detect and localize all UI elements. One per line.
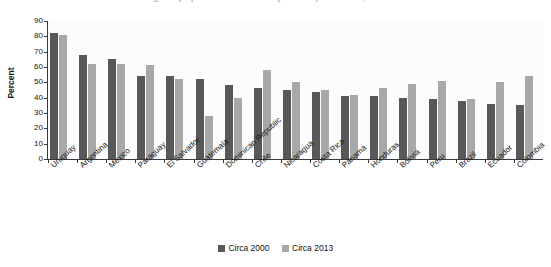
bar-group — [223, 21, 252, 159]
x-axis-labels: UruguayArgentinaMexicoParaguayEl Salvado… — [47, 163, 547, 221]
bar-group — [485, 21, 514, 159]
bar — [146, 65, 154, 159]
y-tick-label: 40 — [24, 94, 43, 102]
y-tick-label: 90 — [24, 17, 43, 25]
bar — [283, 90, 291, 159]
legend-item: Circa 2013 — [282, 243, 334, 253]
bar — [225, 85, 233, 159]
bar-group — [368, 21, 397, 159]
bar — [137, 76, 145, 159]
chart-figure: Percentage of population covered by soci… — [0, 0, 551, 267]
bar — [370, 96, 378, 159]
bar — [50, 33, 58, 159]
bar — [117, 64, 125, 159]
bar — [438, 81, 446, 159]
legend-label: Circa 2013 — [292, 243, 333, 253]
bar — [516, 105, 524, 159]
bar — [341, 96, 349, 159]
bar — [108, 59, 116, 159]
bar-group — [456, 21, 485, 159]
bar-group — [339, 21, 368, 159]
bar-group — [135, 21, 164, 159]
bar — [196, 79, 204, 159]
legend-swatch — [218, 245, 225, 252]
bar-group — [397, 21, 426, 159]
bar-series-container — [48, 21, 543, 159]
bar-group — [427, 21, 456, 159]
y-tick-label: 50 — [24, 78, 43, 86]
bar-group — [310, 21, 339, 159]
bar-group — [514, 21, 543, 159]
bar — [59, 35, 67, 159]
legend-label: Circa 2000 — [228, 243, 269, 253]
bar — [312, 92, 320, 159]
bar-group — [77, 21, 106, 159]
bar — [88, 64, 96, 159]
bar — [399, 98, 407, 159]
plot-area: 0102030405060708090 — [47, 21, 543, 160]
y-tick-label: 20 — [24, 124, 43, 132]
bar-group — [48, 21, 77, 159]
y-tick-label: 30 — [24, 109, 43, 117]
bar — [254, 88, 262, 159]
chart-legend: Circa 2000Circa 2013 — [0, 243, 551, 253]
bar — [458, 101, 466, 159]
bar — [263, 70, 271, 159]
bar — [79, 55, 87, 159]
bar-group — [281, 21, 310, 159]
bar-group — [164, 21, 193, 159]
y-tick-label: 70 — [24, 48, 43, 56]
y-tick-label: 80 — [24, 32, 43, 40]
legend-swatch — [282, 245, 289, 252]
bar — [487, 104, 495, 159]
chart-title-clipped: Percentage of population covered by soci… — [0, 0, 551, 9]
bar — [429, 99, 437, 159]
y-tick-label: 0 — [24, 155, 43, 163]
legend-item: Circa 2000 — [218, 243, 270, 253]
chart-title-text: Percentage of population covered by soci… — [112, 0, 459, 2]
bar-group — [106, 21, 135, 159]
y-tick-label: 60 — [24, 63, 43, 71]
y-tick-label: 10 — [24, 140, 43, 148]
y-axis-label: Percent — [6, 48, 16, 118]
